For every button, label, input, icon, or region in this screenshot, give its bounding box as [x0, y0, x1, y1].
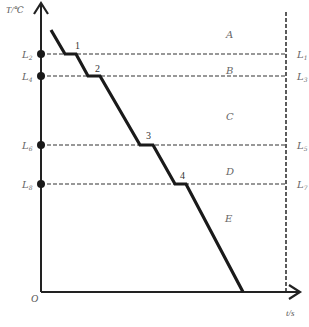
region-c-label: C	[226, 111, 234, 122]
left-label-l6: L6	[21, 140, 33, 152]
y-axis-label: T/℃	[6, 5, 25, 15]
plateau-4-label: 4	[180, 170, 185, 181]
right-label-l5: L5	[296, 140, 308, 152]
cooling-curve-diagram: T/℃ t/s O L2 L4 L6 L8 L1 L3 L5 L7 A B C …	[0, 0, 309, 327]
x-axis-label: t/s	[286, 308, 295, 318]
left-label-l4: L4	[21, 71, 33, 83]
plateau-2-label: 2	[95, 63, 100, 74]
dot-l2	[37, 50, 45, 58]
axes	[34, 3, 300, 299]
region-d-label: D	[225, 166, 234, 177]
right-label-l1: L1	[296, 49, 307, 61]
right-label-l7: L7	[296, 179, 308, 191]
right-label-l3: L3	[296, 71, 308, 83]
plateau-1-label: 1	[75, 40, 80, 51]
region-e-label: E	[224, 213, 233, 224]
dot-l4	[37, 72, 45, 80]
origin-label: O	[31, 293, 38, 304]
region-a-label: A	[225, 29, 233, 40]
left-label-l2: L2	[21, 49, 33, 61]
left-label-l8: L8	[21, 179, 33, 191]
dot-l6	[37, 141, 45, 149]
region-b-label: B	[225, 65, 233, 76]
plateau-3-label: 3	[146, 130, 151, 141]
dot-l8	[37, 180, 45, 188]
cooling-curve	[51, 30, 243, 292]
